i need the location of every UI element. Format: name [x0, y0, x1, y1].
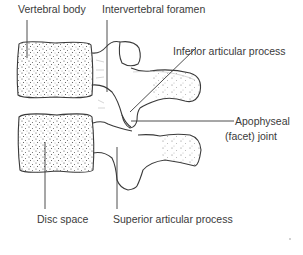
label-superior-articular-process: Superior articular process [113, 213, 233, 225]
lower-vertebral-body [18, 114, 94, 172]
label-intervertebral-foramen: Intervertebral foramen [102, 3, 205, 15]
label-disc-space: Disc space [37, 213, 88, 225]
lower-posterior-elements [93, 122, 201, 190]
foramen-shading [96, 60, 105, 108]
vertebrae-diagram: Vertebral body Intervertebral foramen In… [0, 0, 303, 255]
label-inferior-articular-process: Inferior articular process [173, 45, 286, 57]
upper-vertebral-body [17, 42, 93, 98]
label-apophyseal-joint-line1: Apophyseal [235, 115, 290, 127]
label-apophyseal-joint-line2: (facet) joint [225, 130, 277, 142]
artifact-speck [289, 238, 291, 240]
label-vertebral-body: Vertebral body [18, 3, 86, 15]
